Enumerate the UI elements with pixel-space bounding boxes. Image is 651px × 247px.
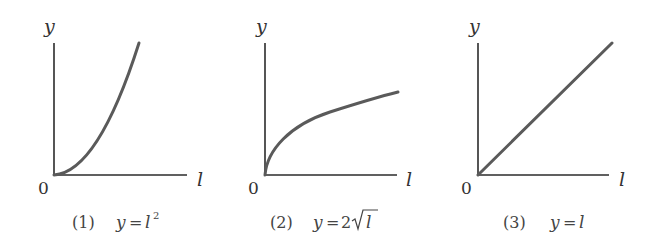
caption-equals: = — [563, 213, 576, 232]
caption-index: (2) — [270, 213, 293, 232]
caption-lhs: y — [312, 212, 323, 232]
caption-lhs: y — [549, 212, 560, 232]
caption-rhs: l — [145, 212, 150, 232]
x-axis-label: l — [619, 168, 625, 190]
origin-label: 0 — [248, 178, 259, 198]
parabola-curve — [54, 43, 139, 175]
caption-rhs: l — [366, 212, 371, 232]
linear-line — [478, 43, 612, 175]
caption-3: (3) y = l — [503, 212, 584, 232]
caption-index: (3) — [503, 213, 526, 232]
caption-lhs: y — [115, 212, 126, 232]
caption-equals: = — [326, 213, 339, 232]
caption-exponent: 2 — [153, 210, 159, 221]
caption-equals: = — [129, 213, 142, 232]
origin-label: 0 — [461, 178, 472, 198]
y-axis-label: y — [43, 15, 55, 37]
three-graphs-figure: y l 0 (1) y = l 2 y l 0 (2) y = 2 l y — [0, 0, 651, 247]
y-axis-label: y — [255, 15, 267, 37]
y-axis-label: y — [468, 15, 480, 37]
panel-1-y-equals-l-squared: y l 0 (1) y = l 2 — [38, 15, 203, 232]
caption-coefficient: 2 — [341, 213, 351, 232]
sqrt-curve — [265, 92, 398, 175]
caption-index: (1) — [72, 213, 95, 232]
origin-label: 0 — [38, 178, 49, 198]
x-axis-label: l — [197, 168, 203, 190]
x-axis-label: l — [406, 168, 412, 190]
caption-rhs: l — [579, 212, 584, 232]
panel-3-y-equals-l: y l 0 (3) y = l — [461, 15, 625, 232]
panel-2-y-equals-2-sqrt-l: y l 0 (2) y = 2 l — [248, 15, 412, 232]
sqrt-radical-icon — [352, 210, 378, 229]
caption-2: (2) y = 2 l — [270, 210, 378, 232]
caption-1: (1) y = l 2 — [72, 210, 159, 232]
